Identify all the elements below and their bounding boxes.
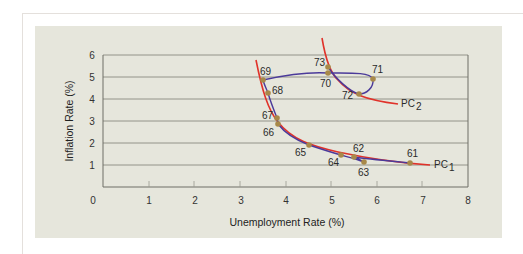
label-69: 69 <box>260 66 272 77</box>
point-61 <box>407 160 413 166</box>
label-71: 71 <box>372 64 384 75</box>
point-72 <box>356 91 362 97</box>
point-66 <box>275 121 281 127</box>
svg-text:2: 2 <box>416 101 422 112</box>
x-tick-2: 2 <box>192 195 198 206</box>
label-72: 72 <box>342 90 354 101</box>
x-tick-7: 7 <box>420 195 426 206</box>
point-68 <box>265 90 271 96</box>
point-63 <box>361 159 367 165</box>
x-tick-6: 6 <box>374 195 380 206</box>
label-73: 73 <box>314 57 326 68</box>
x-axis-ticks <box>149 181 422 187</box>
point-labels: 61 62 63 64 65 66 67 68 69 70 71 72 73 <box>260 57 419 178</box>
x-tick-0: 0 <box>90 195 96 206</box>
y-axis-tick-labels: 6 5 4 3 2 1 <box>89 50 95 171</box>
y-tick-2: 2 <box>89 138 95 149</box>
y-tick-1: 1 <box>89 160 95 171</box>
label-67: 67 <box>262 110 274 121</box>
point-62 <box>351 154 357 160</box>
actual-path-line <box>263 67 410 163</box>
svg-text:PC: PC <box>401 98 415 109</box>
svg-text:PC: PC <box>434 159 448 170</box>
y-tick-3: 3 <box>89 116 95 127</box>
x-axis-tick-labels: 0 1 2 3 4 5 6 7 8 <box>90 195 471 206</box>
x-tick-4: 4 <box>283 195 289 206</box>
y-tick-6: 6 <box>89 50 95 61</box>
label-62: 62 <box>353 143 365 154</box>
label-66: 66 <box>263 127 275 138</box>
label-68: 68 <box>272 85 284 96</box>
x-axis-title: Unemployment Rate (%) <box>230 216 345 228</box>
point-69 <box>260 77 266 83</box>
x-tick-3: 3 <box>238 195 244 206</box>
point-65 <box>306 142 312 148</box>
x-tick-5: 5 <box>329 195 335 206</box>
label-65: 65 <box>295 147 307 158</box>
label-70: 70 <box>320 78 332 89</box>
x-tick-8: 8 <box>465 195 471 206</box>
point-67 <box>274 115 280 121</box>
label-61: 61 <box>407 148 419 159</box>
label-63: 63 <box>358 167 370 178</box>
pc2-label: PC 2 <box>401 98 422 112</box>
point-73 <box>325 64 331 70</box>
point-70 <box>325 70 331 76</box>
y-axis-title: Inflation Rate (%) <box>63 80 75 161</box>
point-71 <box>370 76 376 82</box>
label-64: 64 <box>328 157 340 168</box>
svg-text:1: 1 <box>449 162 455 173</box>
y-tick-5: 5 <box>89 72 95 83</box>
pc1-label: PC 1 <box>434 159 455 173</box>
x-tick-1: 1 <box>146 195 152 206</box>
y-tick-4: 4 <box>89 94 95 105</box>
